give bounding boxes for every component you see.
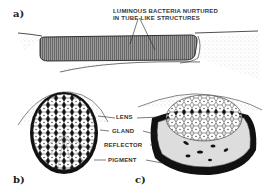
label-gland: GLAND: [112, 128, 134, 134]
label-pigment: PIGMENT: [108, 157, 137, 163]
label-reflector: REFLECTOR: [104, 142, 142, 148]
panel-a-label: a): [13, 8, 24, 19]
bacteria-annotation-line2: IN TUBE-LIKE STRUCTURES: [113, 15, 200, 21]
panel-c-drawing: [137, 94, 262, 175]
panel-b-drawing: [18, 92, 115, 174]
bacteria-annotation-line1: LUMINOUS BACTERIA NURTURED: [113, 8, 218, 14]
panel-b-label: b): [13, 174, 25, 185]
panel-a-drawing: [18, 19, 260, 80]
label-lens: LENS: [116, 114, 133, 120]
light-organ-diagram: a) LUMINOUS BACTERIA NURTURED IN TUBE-LI…: [0, 0, 272, 194]
diagram-drawing: [0, 0, 272, 194]
panel-c-label: c): [135, 174, 146, 185]
